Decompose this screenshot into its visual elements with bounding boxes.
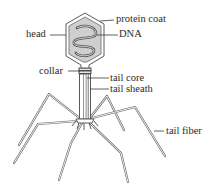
- label-tail-fiber: tail fiber: [166, 126, 202, 137]
- tail-fiber-right: [92, 107, 165, 156]
- tail-fiber-front-left: [59, 123, 82, 180]
- tail-fiber-back-left: [19, 94, 82, 145]
- tail-fiber-front-right: [90, 123, 128, 182]
- label-tail-sheath: tail sheath: [110, 84, 153, 95]
- leader-protein-coat: [100, 20, 114, 21]
- collar: [79, 68, 91, 74]
- head: [66, 13, 104, 68]
- label-collar: collar: [39, 66, 63, 77]
- tail-fiber-left: [14, 121, 78, 163]
- label-dna: DNA: [119, 29, 142, 40]
- label-protein-coat: protein coat: [116, 14, 166, 25]
- label-head: head: [26, 29, 46, 40]
- tail-fiber-back-right: [90, 96, 124, 130]
- tail: [80, 74, 91, 119]
- tail-sheath: [80, 74, 91, 119]
- label-tail-core: tail core: [110, 73, 144, 84]
- tail-core: [86, 74, 89, 119]
